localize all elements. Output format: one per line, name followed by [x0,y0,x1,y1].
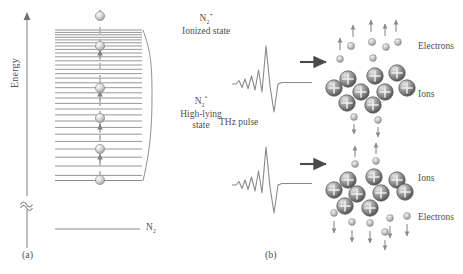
ground-state-label: N2 [146,222,156,235]
high-lying-brace [143,30,152,181]
high-lying-state-caption-1: High-lying [180,109,222,119]
electrons-label-bottom: Electrons [418,212,454,223]
high-lying-state-formula: N2* [195,96,208,106]
electron-group-bottom-upper [352,158,380,168]
thz-pulse-waveform-top [232,46,312,112]
energy-level-ladder [55,30,142,181]
ions-label-top: Ions [418,89,434,100]
ionized-state-label: N2+ Ionized state [182,12,230,37]
ions-label-bottom: Ions [418,173,434,184]
energy-axis [24,12,31,248]
ion-group-top [326,65,415,113]
energy-axis-label: Energy [9,58,20,88]
ionized-state-formula: N2+ [200,13,213,23]
electron-group-top-lower [351,114,382,124]
electron-group-top [337,38,402,62]
panel-tag-a: (a) [22,249,33,261]
plasma-cluster-top [326,20,415,137]
figure-root: Energy N2+ Ionized state N2* High-lying … [0,0,463,274]
thz-pulse-label: THz pulse [219,117,258,128]
ion-group-bottom [326,169,413,216]
ionized-state-caption: Ionized state [182,26,230,36]
panel-tag-b: (b) [265,249,277,261]
axis-break-symbol [21,196,34,211]
plasma-cluster-bottom [326,143,413,250]
thz-pulse-waveform-bottom [232,147,312,213]
figure-canvas [0,0,463,274]
high-lying-state-caption-2: state [192,120,209,130]
electrons-label-top: Electrons [418,41,454,52]
